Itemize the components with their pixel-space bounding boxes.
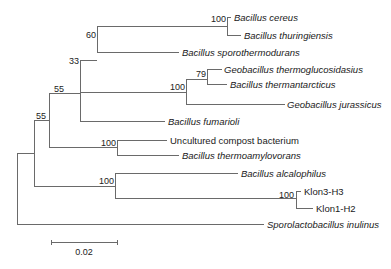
taxon-label: Bacillus thuringiensis	[244, 30, 333, 41]
taxon-label: Klon1-H2	[316, 203, 356, 214]
taxon-label: Uncultured compost bacterium	[170, 135, 299, 146]
bootstrap-value: 100	[211, 14, 226, 24]
scale-bar-label: 0.02	[75, 247, 93, 257]
taxon-label: Bacillus fumarioli	[168, 116, 240, 127]
taxon-label: Geobacillus jurassicus	[287, 99, 382, 110]
taxon-labels: Bacillus cereus Bacillus thuringiensis B…	[168, 12, 382, 230]
bootstrap-value: 100	[99, 176, 114, 186]
bootstrap-value: 100	[101, 138, 116, 148]
branch-root	[17, 153, 264, 224]
bootstrap-value: 55	[54, 84, 64, 94]
taxon-label: Bacillus cereus	[234, 12, 298, 23]
phylogenetic-tree: Bacillus cereus Bacillus thuringiensis B…	[0, 0, 391, 269]
taxon-label: Geobacillus thermoglucosidasius	[224, 64, 363, 75]
bootstrap-value: 79	[196, 69, 206, 79]
branch-fumarioli-clade	[80, 60, 165, 121]
scale-bar-line	[51, 240, 117, 245]
scale-bar: 0.02	[51, 240, 117, 258]
taxon-label: Bacillus sporothermodurans	[182, 47, 300, 58]
taxon-label: Klon3-H3	[304, 186, 344, 197]
taxon-label: Bacillus thermoamylovorans	[182, 150, 301, 161]
bootstrap-value: 100	[279, 190, 294, 200]
bootstrap-value: 60	[86, 30, 96, 40]
bootstrap-value: 100	[170, 82, 185, 92]
taxon-label: Bacillus thermantarcticus	[230, 79, 336, 90]
taxon-label: Sporolactobacillus inulinus	[267, 219, 379, 230]
bootstrap-value: 55	[36, 111, 46, 121]
taxon-label: Bacillus alcalophilus	[241, 168, 326, 179]
bootstrap-value: 33	[69, 56, 79, 66]
